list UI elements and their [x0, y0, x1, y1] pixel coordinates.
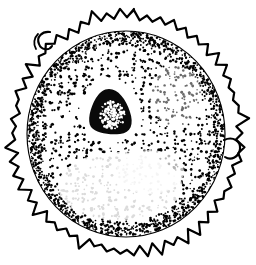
- cell-illustration: [0, 0, 256, 265]
- figure-root: [0, 0, 256, 265]
